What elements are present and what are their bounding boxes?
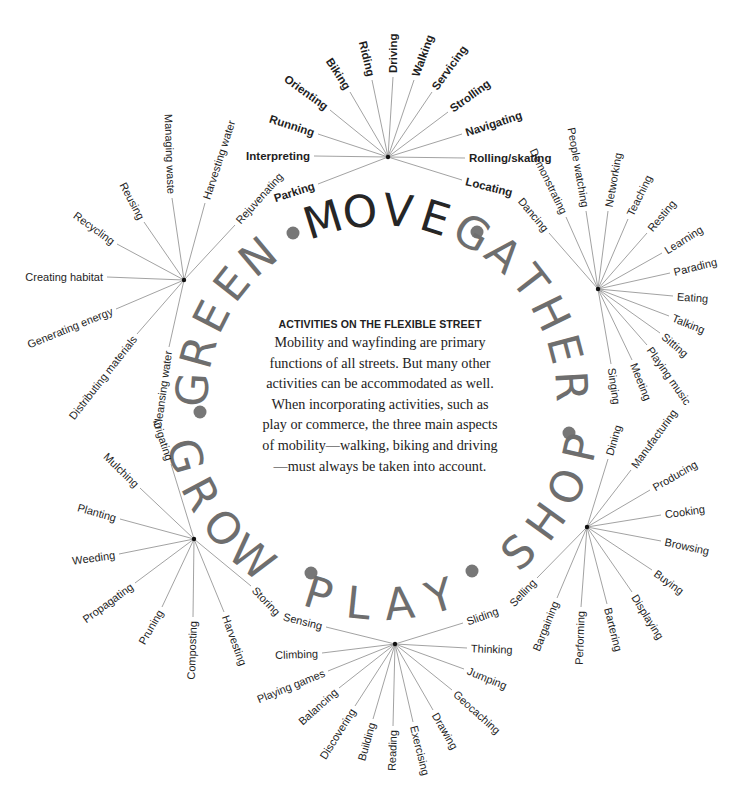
activity-label: Reusing (117, 180, 147, 221)
activity-label: Exercising (408, 724, 432, 776)
activity-label: Planting (76, 501, 118, 523)
activity-label: Geocaching (451, 688, 503, 736)
activity-label: Resting (645, 198, 678, 234)
activity-label: Discovering (317, 706, 358, 761)
spoke-line (395, 644, 467, 648)
activity-label: Interpreting (246, 150, 310, 162)
activity-label: Recycling (71, 209, 117, 247)
activity-label: Drawing (430, 711, 461, 752)
activity-label: People watching (565, 126, 591, 208)
spoke-line (314, 156, 388, 157)
activity-label: Sliding (465, 605, 500, 628)
activity-label: Manufacturing (629, 407, 680, 470)
spoke-line (598, 289, 673, 296)
activity-label: Teaching (624, 173, 654, 218)
center-caption: ACTIVITIES ON THE FLEXIBLE STREET Mobili… (262, 318, 498, 476)
spoke-line (355, 644, 395, 706)
activity-label: Bartering (602, 606, 624, 652)
spoke-line (318, 134, 388, 157)
activity-label: Managing waste (163, 114, 178, 194)
category-cluster-play: SensingClimbingPlaying gamesBalancingDis… (255, 605, 513, 777)
category-letter: R (545, 370, 598, 409)
activity-label: Walking (410, 33, 436, 78)
spoke-line (587, 527, 632, 592)
activity-label: Selling (507, 577, 539, 609)
spoke-line (372, 80, 388, 157)
activity-label: Orienting (282, 73, 330, 113)
hub-point (182, 278, 186, 282)
activity-label: Talking (670, 312, 706, 336)
spoke-line (107, 277, 184, 280)
activity-label: Distributing materials (66, 333, 139, 422)
spoke-line (598, 233, 647, 289)
spoke-line (373, 644, 395, 719)
activity-label: Dining (603, 424, 623, 457)
spoke-line (598, 289, 647, 345)
activity-label: Pruning (136, 608, 165, 647)
activity-label: Reading (385, 730, 398, 771)
spoke-line (117, 244, 184, 280)
activity-label: Composting (185, 621, 199, 680)
activity-label: Strolling (448, 77, 493, 114)
spoke-line (137, 280, 184, 334)
caption-body: Mobility and wayfinding are primary func… (262, 332, 498, 476)
category-letter: V (380, 184, 421, 238)
activity-label: Dancing (516, 195, 551, 234)
separator-dot (466, 565, 479, 578)
activity-label: Propagating (80, 581, 135, 626)
activity-label: Driving (387, 33, 399, 73)
activity-label: Riding (357, 40, 377, 78)
activity-label: Storing (250, 584, 283, 617)
activity-label: Generating energy (26, 305, 115, 350)
activity-label: Performing (573, 611, 587, 665)
spoke-line (395, 644, 464, 669)
separator-dot (287, 227, 300, 240)
activity-label: Browsing (664, 536, 711, 557)
category-word-play: PLAY (298, 566, 465, 631)
spoke-line (388, 157, 462, 180)
activity-label: Balancing (296, 686, 340, 727)
activity-label: Thinking (471, 642, 513, 655)
spoke-line (598, 273, 670, 289)
activity-label: Creating habitat (25, 271, 103, 283)
spoke-line (119, 539, 194, 554)
spoke-line (172, 198, 184, 280)
activity-label: Buying (652, 567, 686, 596)
activity-label: Bargaining (530, 599, 561, 652)
spoke-line (135, 539, 194, 583)
hub-point (393, 642, 397, 646)
spoke-line (395, 644, 433, 710)
spoke-line (566, 217, 598, 289)
spoke-line (144, 222, 184, 280)
category-word-move: MOVE (297, 184, 462, 250)
category-letter: L (344, 576, 380, 630)
spoke-line (162, 539, 194, 607)
activity-label: Cooking (664, 503, 706, 521)
activity-label: Biking (324, 56, 353, 92)
spoke-line (598, 253, 662, 289)
activity-label: Locating (464, 175, 513, 198)
activity-label: Displaying (629, 592, 666, 641)
spoke-line (388, 92, 432, 157)
spoke-line (116, 280, 184, 309)
activity-label: Networking (603, 152, 624, 208)
activity-label: Building (355, 721, 377, 762)
category-letter: A (382, 576, 423, 630)
activity-label: Eating (677, 290, 709, 304)
activity-label: Servicing (429, 43, 469, 92)
activity-label: Harvesting water (200, 118, 237, 201)
activity-label: Running (268, 113, 316, 139)
spoke-line (395, 644, 413, 722)
spoke-line (388, 157, 465, 158)
activity-label: Producing (650, 458, 699, 493)
activity-label: Learning (662, 223, 705, 256)
activity-label: Mulching (101, 450, 141, 489)
spoke-line (388, 134, 462, 157)
spoke-line (395, 644, 452, 690)
spoke-line (598, 289, 660, 333)
category-letter: O (340, 184, 386, 239)
category-word-shop: SHOP (491, 423, 610, 580)
activity-label: Weeding (71, 549, 115, 567)
spoke-line (193, 539, 194, 617)
spoke-line (318, 157, 388, 184)
